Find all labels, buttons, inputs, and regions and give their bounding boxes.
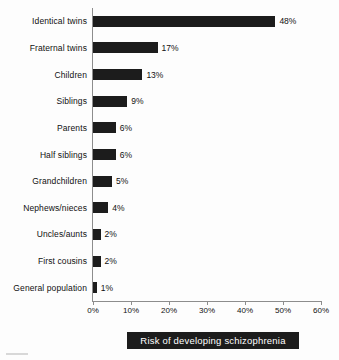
bar-row: Fraternal twins17% (0, 35, 339, 61)
bar-row: General population1% (0, 275, 339, 301)
bar-row: Grandchildren5% (0, 168, 339, 194)
bar-with-value: 6% (93, 115, 132, 141)
bar-value-label: 13% (146, 70, 163, 80)
x-tick-mark (169, 301, 170, 305)
chart-title-text: Risk of developing schizophrenia (140, 335, 285, 346)
bar-with-value: 1% (93, 275, 113, 301)
category-label: Parents (0, 123, 87, 133)
bar-with-value: 2% (93, 221, 117, 247)
category-label: Uncles/aunts (0, 229, 87, 239)
bar-with-value: 2% (93, 248, 117, 274)
bar-row: Parents6% (0, 115, 339, 141)
bar-with-value: 6% (93, 142, 132, 168)
bar-row: First cousins2% (0, 248, 339, 274)
x-tick-label: 40% (237, 306, 253, 315)
bar-rows: Identical twins48%Fraternal twins17%Chil… (0, 8, 339, 301)
x-tick-mark (93, 301, 94, 305)
x-tick-label: 30% (199, 306, 215, 315)
bar (93, 202, 108, 213)
bar-value-label: 2% (105, 256, 117, 266)
bar-with-value: 4% (93, 195, 124, 221)
bar (93, 149, 116, 160)
x-tick-label: 20% (161, 306, 177, 315)
bar (93, 256, 101, 267)
bar-value-label: 9% (131, 96, 143, 106)
bar-row: Children13% (0, 62, 339, 88)
bar-value-label: 6% (120, 123, 132, 133)
bar-value-label: 5% (116, 176, 128, 186)
bar (93, 282, 97, 293)
x-tick-label: 10% (123, 306, 139, 315)
category-label: Grandchildren (0, 176, 87, 186)
bar-row: Uncles/aunts2% (0, 221, 339, 247)
x-tick-mark (207, 301, 208, 305)
bar-value-label: 1% (101, 283, 113, 293)
x-tick-mark (283, 301, 284, 305)
category-label: First cousins (0, 256, 87, 266)
bar-value-label: 48% (279, 16, 296, 26)
bar-value-label: 4% (112, 203, 124, 213)
bar (93, 122, 116, 133)
category-label: Children (0, 70, 87, 80)
bar (93, 229, 101, 240)
bar (93, 176, 112, 187)
bar-value-label: 6% (120, 150, 132, 160)
x-tick-mark (321, 301, 322, 305)
x-tick-label: 60% (313, 306, 329, 315)
bar-chart: Identical twins48%Fraternal twins17%Chil… (0, 0, 339, 360)
category-label: Half siblings (0, 150, 87, 160)
bar (93, 96, 127, 107)
bar-row: Siblings9% (0, 88, 339, 114)
bar-with-value: 17% (93, 35, 179, 61)
bar-value-label: 2% (105, 229, 117, 239)
x-tick-label: 50% (275, 306, 291, 315)
bar-with-value: 5% (93, 168, 128, 194)
category-label: Siblings (0, 96, 87, 106)
bar-value-label: 17% (162, 43, 179, 53)
bar-with-value: 48% (93, 8, 296, 34)
bar-with-value: 13% (93, 62, 163, 88)
bar-row: Identical twins48% (0, 8, 339, 34)
bar (93, 69, 142, 80)
category-label: Nephews/nieces (0, 203, 87, 213)
x-tick-mark (131, 301, 132, 305)
x-tick-label: 0% (87, 306, 99, 315)
x-axis-ticks: 0%10%20%30%40%50%60% (0, 301, 339, 321)
bar-with-value: 9% (93, 88, 143, 114)
bar (93, 16, 275, 27)
bar-row: Nephews/nieces4% (0, 195, 339, 221)
bar-row: Half siblings6% (0, 142, 339, 168)
x-tick-mark (245, 301, 246, 305)
chart-page: Identical twins48%Fraternal twins17%Chil… (0, 0, 339, 360)
page-edge-artifact (6, 353, 28, 355)
category-label: Identical twins (0, 16, 87, 26)
bar (93, 42, 158, 53)
chart-title-plate: Risk of developing schizophrenia (127, 332, 299, 349)
category-label: General population (0, 283, 87, 293)
category-label: Fraternal twins (0, 43, 87, 53)
